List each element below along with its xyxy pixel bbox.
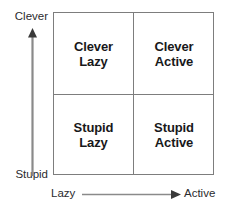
x-axis-high-label: Active [184,187,215,200]
arrow-up-icon [26,28,39,176]
quadrant-diagram: Clever Lazy Clever Active Stupid Lazy St… [0,0,228,211]
quadrant-stupid-active[interactable]: Stupid Active [134,95,214,175]
quadrant-clever-lazy-line-2: Lazy [79,54,108,69]
x-axis-low-label: Lazy [51,187,75,200]
quadrant-stupid-active-line-1: Stupid [154,120,194,135]
quadrant-stupid-active-line-2: Active [155,135,193,150]
quadrant-stupid-lazy-line-1: Stupid [74,120,114,135]
arrow-right-icon [82,188,181,201]
quadrant-stupid-lazy[interactable]: Stupid Lazy [54,95,133,175]
quadrant-clever-active-line-2: Active [155,54,193,69]
quadrant-clever-active-line-1: Clever [154,39,193,54]
quadrant-clever-active[interactable]: Clever Active [134,13,214,94]
quadrant-stupid-lazy-line-2: Lazy [79,135,108,150]
quadrant-clever-lazy[interactable]: Clever Lazy [54,13,133,94]
quadrant-clever-lazy-line-1: Clever [74,39,113,54]
y-axis-low-label: Stupid [0,168,48,181]
y-axis-high-label: Clever [0,10,48,23]
